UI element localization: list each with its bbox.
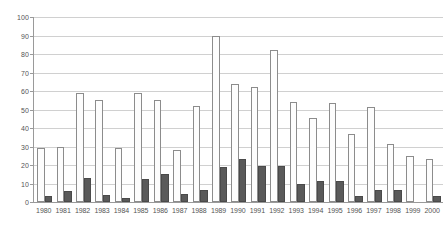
y-tick-label-30: 30 — [0, 144, 29, 151]
x-tick-label-1998: 1998 — [384, 206, 403, 220]
x-tick-label-1993: 1993 — [286, 206, 305, 220]
bar-dark-series-1989[interactable] — [220, 167, 228, 202]
bar-dark-series-1986[interactable] — [161, 174, 169, 202]
y-tick-mark-90 — [30, 36, 33, 37]
bar-light-series-1986[interactable] — [154, 100, 162, 202]
bar-light-series-1982[interactable] — [76, 93, 84, 202]
x-tick-label-1995: 1995 — [325, 206, 344, 220]
bar-dark-series-1992[interactable] — [278, 166, 286, 202]
y-tick-mark-10 — [30, 184, 33, 185]
bar-light-series-1996[interactable] — [348, 134, 356, 202]
y-tick-mark-100 — [30, 17, 33, 18]
y-tick-mark-0 — [30, 202, 33, 203]
bar-dark-series-1990[interactable] — [239, 159, 247, 202]
bar-light-series-1991[interactable] — [251, 87, 259, 202]
y-tick-label-20: 20 — [0, 162, 29, 169]
bar-group-1992 — [268, 17, 287, 202]
bar-dark-series-1988[interactable] — [200, 190, 208, 202]
bar-group-1997 — [365, 17, 384, 202]
bar-group-1996 — [346, 17, 365, 202]
x-axis-labels: 1980198119821983198419851986198719881989… — [34, 206, 442, 220]
x-tick-label-1982: 1982 — [73, 206, 92, 220]
bar-dark-series-1998[interactable] — [394, 190, 402, 202]
x-tick-label-1987: 1987 — [170, 206, 189, 220]
bar-dark-series-1995[interactable] — [336, 181, 344, 202]
bar-group-1995 — [326, 17, 345, 202]
bar-dark-series-1984[interactable] — [122, 198, 130, 202]
bar-dark-series-1997[interactable] — [375, 190, 383, 202]
x-tick-label-1992: 1992 — [267, 206, 286, 220]
bar-dark-series-1994[interactable] — [317, 181, 325, 202]
y-tick-mark-20 — [30, 165, 33, 166]
bar-group-1991 — [249, 17, 268, 202]
bar-chart: 0102030405060708090100 19801981198219831… — [0, 0, 447, 238]
bar-light-series-1997[interactable] — [367, 107, 375, 202]
bar-group-1988 — [190, 17, 209, 202]
x-tick-label-1994: 1994 — [306, 206, 325, 220]
bar-group-1993 — [287, 17, 306, 202]
bar-group-1990 — [229, 17, 248, 202]
y-tick-mark-60 — [30, 91, 33, 92]
bar-dark-series-1985[interactable] — [142, 179, 150, 202]
bar-light-series-1992[interactable] — [270, 50, 278, 202]
gridline-0 — [34, 202, 443, 203]
bar-light-series-2000[interactable] — [426, 159, 434, 202]
bar-light-series-1990[interactable] — [231, 84, 239, 202]
x-tick-label-1980: 1980 — [34, 206, 53, 220]
bar-light-series-1980[interactable] — [37, 148, 45, 202]
bar-light-series-1984[interactable] — [115, 148, 123, 202]
bar-light-series-1999[interactable] — [406, 156, 414, 202]
y-tick-label-60: 60 — [0, 88, 29, 95]
bar-light-series-1998[interactable] — [387, 144, 395, 202]
bar-light-series-1993[interactable] — [290, 102, 298, 202]
bar-group-1985 — [132, 17, 151, 202]
bar-group-1983 — [93, 17, 112, 202]
x-tick-label-1991: 1991 — [248, 206, 267, 220]
x-tick-label-2000: 2000 — [422, 206, 441, 220]
bar-group-1981 — [54, 17, 73, 202]
bar-light-series-1989[interactable] — [212, 36, 220, 203]
bar-light-series-1988[interactable] — [193, 106, 201, 202]
bar-dark-series-1996[interactable] — [355, 196, 363, 202]
bar-light-series-1983[interactable] — [95, 100, 103, 202]
bar-dark-series-2000[interactable] — [433, 196, 441, 202]
x-tick-label-1989: 1989 — [209, 206, 228, 220]
bars-layer — [35, 17, 443, 202]
bar-dark-series-1983[interactable] — [103, 195, 111, 202]
plot-area — [33, 17, 442, 203]
x-tick-label-1986: 1986 — [151, 206, 170, 220]
y-tick-label-70: 70 — [0, 70, 29, 77]
x-tick-label-1997: 1997 — [364, 206, 383, 220]
y-tick-label-0: 0 — [0, 199, 29, 206]
bar-group-1980 — [35, 17, 54, 202]
y-tick-mark-70 — [30, 73, 33, 74]
bar-light-series-1995[interactable] — [329, 103, 337, 202]
y-tick-mark-40 — [30, 128, 33, 129]
x-tick-label-1983: 1983 — [92, 206, 111, 220]
y-tick-label-100: 100 — [0, 14, 29, 21]
bar-dark-series-1987[interactable] — [181, 194, 189, 202]
bar-dark-series-1980[interactable] — [45, 196, 53, 202]
bar-dark-series-1981[interactable] — [64, 191, 72, 202]
y-tick-mark-50 — [30, 110, 33, 111]
bar-light-series-1981[interactable] — [57, 147, 65, 203]
y-tick-label-40: 40 — [0, 125, 29, 132]
y-tick-label-50: 50 — [0, 107, 29, 114]
bar-dark-series-1982[interactable] — [84, 178, 92, 202]
bar-dark-series-1991[interactable] — [258, 166, 266, 202]
y-tick-label-90: 90 — [0, 33, 29, 40]
bar-group-1987 — [171, 17, 190, 202]
y-tick-label-10: 10 — [0, 181, 29, 188]
bar-group-1982 — [74, 17, 93, 202]
bar-group-1994 — [307, 17, 326, 202]
bar-light-series-1994[interactable] — [309, 118, 317, 202]
bar-group-1998 — [385, 17, 404, 202]
bar-dark-series-1993[interactable] — [297, 184, 305, 202]
bar-group-1999 — [404, 17, 423, 202]
y-tick-label-80: 80 — [0, 51, 29, 58]
bar-light-series-1987[interactable] — [173, 150, 181, 202]
plot-wrapper — [33, 17, 442, 203]
x-tick-label-1996: 1996 — [345, 206, 364, 220]
bar-light-series-1985[interactable] — [134, 93, 142, 202]
x-tick-label-1988: 1988 — [189, 206, 208, 220]
